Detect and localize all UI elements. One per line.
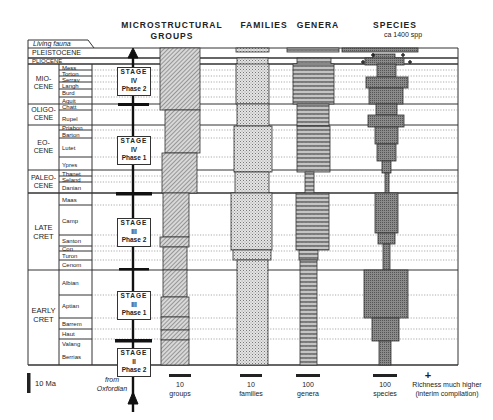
legend-genera-number: 100 [288, 380, 328, 389]
legend-groups-unit: groups [160, 389, 200, 398]
legend-from-l1: from [92, 375, 132, 384]
legend-groups-number: 10 [160, 380, 200, 389]
epoch-early-cret-l2: CRET [28, 315, 59, 324]
stage-box-iv-phase2: STAGE IV Phase 2 [117, 67, 151, 96]
stage-burd: Burd [62, 90, 75, 96]
stage-turon: Turon [62, 253, 77, 259]
epoch-eocene-l1: EO- [28, 139, 59, 147]
legend-species: 100 species [365, 380, 405, 398]
stage-lutet: Lutet [62, 145, 75, 151]
stage-camp: Camp [62, 218, 78, 224]
legend-bars [27, 373, 397, 393]
stage-santon: Santon [62, 238, 81, 244]
stage-valang: Valang [62, 341, 80, 347]
stage-chatt: Chatt [62, 104, 76, 110]
stage-box-numeral: III [118, 228, 150, 237]
epoch-paleocene-l1: PALEO- [28, 174, 59, 182]
groups-column [160, 48, 200, 365]
legend-groups: 10 groups [160, 380, 200, 398]
stage-box-iii-phase2: STAGE III Phase 2 [117, 218, 151, 247]
stage-albian: Albian [62, 280, 79, 286]
stage-cenom: Cenom [62, 262, 81, 268]
epoch-oligocene: OLIGO- CENE [28, 106, 59, 122]
stage-box-title: STAGE [118, 137, 150, 146]
epoch-paleocene: PALEO- CENE [28, 174, 59, 190]
epoch-oligocene-l1: OLIGO- [28, 106, 59, 114]
stage-ypres: Ypres [62, 162, 77, 168]
epoch-miocene-l1: MIO- [28, 75, 59, 83]
stage-rupel: Rupel [62, 116, 78, 122]
families-column [231, 48, 272, 365]
epoch-eocene-l2: CENE [28, 147, 59, 155]
stage-langh: Langh [62, 83, 79, 89]
stage-box-iv-phase1: STAGE IV Phase 1 [117, 136, 151, 165]
legend-richness-l2: (interim compilation) [401, 389, 493, 398]
epoch-oligocene-l2: CENE [28, 114, 59, 122]
legend-families-number: 10 [231, 380, 271, 389]
legend-families: 10 families [231, 380, 271, 398]
stage-danian: Danian [62, 185, 81, 191]
legend-families-unit: families [231, 389, 271, 398]
stage-box-phase: Phase 2 [118, 366, 150, 375]
stage-box-title: STAGE [118, 349, 150, 358]
stage-maas: Maas [62, 197, 77, 203]
legend-from-oxfordian: from Oxfordian [92, 375, 132, 393]
epoch-late-cret-l1: LATE [28, 223, 59, 232]
epoch-early-cret: EARLY CRET [28, 306, 59, 324]
stage-barton: Barton [62, 132, 80, 138]
stage-aptian: Aptian [62, 303, 79, 309]
epoch-pliocene: PLIOCENE [32, 58, 62, 64]
stage-box-numeral: IV [118, 146, 150, 155]
stage-box-numeral: II [118, 358, 150, 367]
legend-genera: 100 genera [288, 380, 328, 398]
stage-box-title: STAGE [118, 292, 150, 301]
stage-box-phase: Phase 2 [118, 85, 150, 94]
living-fauna-label: Living fauna [33, 40, 71, 47]
stage-priabon: Priabon [62, 125, 83, 131]
stage-box-iii-phase1: STAGE III Phase 1 [117, 291, 151, 320]
stage-barrem: Barrem [62, 321, 82, 327]
stage-box-phase: Phase 1 [118, 154, 150, 163]
stage-haut: Haut [62, 331, 75, 337]
stage-box-title: STAGE [118, 68, 150, 77]
stage-box-numeral: III [118, 301, 150, 310]
stage-box-phase: Phase 1 [118, 309, 150, 318]
epoch-miocene: MIO- CENE [28, 75, 59, 91]
legend-richness-note: Richness much higher (interim compilatio… [401, 380, 493, 398]
genera-column [287, 48, 339, 365]
epoch-eocene: EO- CENE [28, 139, 59, 155]
epoch-pleistocene: PLEISTOCENE [32, 49, 81, 56]
epoch-late-cret: LATE CRET [28, 223, 59, 241]
stage-berrias: Berrias [62, 354, 81, 360]
stage-box-title: STAGE [118, 219, 150, 228]
epoch-paleocene-l2: CENE [28, 182, 59, 190]
epoch-miocene-l2: CENE [28, 83, 59, 91]
species-column [342, 48, 418, 365]
epoch-late-cret-l2: CRET [28, 232, 59, 241]
legend-genera-unit: genera [288, 389, 328, 398]
stage-seland: Seland [62, 177, 81, 183]
legend-richness-l1: Richness much higher [401, 380, 493, 389]
stage-box-numeral: IV [118, 77, 150, 86]
epoch-early-cret-l1: EARLY [28, 306, 59, 315]
stage-box-phase: Phase 2 [118, 236, 150, 245]
legend-species-unit: species [365, 389, 405, 398]
legend-from-l2: Oxfordian [92, 384, 132, 393]
legend-species-number: 100 [365, 380, 405, 389]
legend-scale-label: 10 Ma [35, 379, 56, 388]
stage-con: Con [62, 246, 73, 252]
stage-box-ii-phase2: STAGE II Phase 2 [117, 348, 151, 377]
